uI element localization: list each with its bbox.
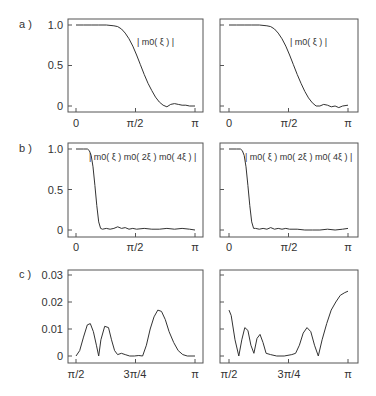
x-ticks-b: 0 π/2 π 0 π/2 π	[73, 241, 352, 253]
row-label-c: c )	[19, 268, 31, 280]
x-tick-label: 0	[73, 241, 79, 253]
curves	[76, 25, 348, 356]
x-tick-label: π	[191, 241, 199, 253]
y-tick-a-0: 0	[57, 100, 63, 112]
annotation-a-right: | m0( ξ ) |	[290, 37, 327, 47]
annotation-b-left: | m0( ξ ) m0( 2ξ ) m0( 4ξ ) |	[89, 152, 196, 162]
x-tick-label: π	[344, 241, 352, 253]
x-ticks-a: 0 π/2 π 0 π/2 π	[73, 117, 352, 129]
x-tick-label: π/2	[68, 368, 85, 380]
x-ticks-c: π/2 3π/4 π π/2 3π/4 π	[68, 368, 353, 380]
panel-frames	[68, 19, 358, 363]
y-tick-b-0: 0	[57, 224, 63, 236]
curve-a-left	[76, 25, 195, 107]
x-tick-label: π/2	[281, 117, 298, 129]
x-tick-label: π/2	[127, 241, 144, 253]
x-tick-label: 0	[226, 241, 232, 253]
x-tick-label: 3π/4	[124, 368, 147, 380]
y-tick-c-001: 0.01	[42, 323, 63, 335]
x-tick-label: π/2	[281, 241, 298, 253]
curve-c-left	[76, 310, 195, 356]
x-tick-label: π	[191, 117, 199, 129]
x-tick-label: π	[191, 368, 199, 380]
panel-frame-c-right	[220, 270, 358, 363]
y-tick-b-05: 0.5	[48, 184, 63, 196]
y-tick-b-1: 1.0	[48, 143, 63, 155]
x-tick-label: π/2	[127, 117, 144, 129]
figure: a ) b ) c ) 1.0 0.5 0 1.0 0.5 0 0.03 0.0…	[0, 0, 376, 396]
y-tick-a-1: 1.0	[48, 19, 63, 31]
row-label-a: a )	[19, 18, 32, 30]
x-tick-label: 0	[226, 117, 232, 129]
annotation-a-left: | m0( ξ ) |	[137, 37, 174, 47]
x-tick-label: 3π/4	[278, 368, 301, 380]
panel-frame-c-left	[68, 270, 203, 363]
y-tick-c-003: 0.03	[42, 269, 63, 281]
x-tick-label: π	[344, 368, 352, 380]
panel-frame-a-left	[68, 19, 203, 112]
panel-frame-a-right	[220, 19, 358, 112]
y-tick-a-05: 0.5	[48, 59, 63, 71]
x-tick-label: π	[344, 117, 352, 129]
row-label-b: b )	[19, 142, 32, 154]
curve-c-right	[229, 291, 348, 356]
curve-a-right	[229, 25, 348, 108]
x-tick-label: π/2	[221, 368, 238, 380]
y-tick-c-002: 0.02	[42, 296, 63, 308]
y-tick-c-0: 0	[57, 350, 63, 362]
annotation-b-right: | m0( ξ ) m0( 2ξ ) m0( 4ξ ) |	[245, 152, 352, 162]
x-tick-label: 0	[73, 117, 79, 129]
